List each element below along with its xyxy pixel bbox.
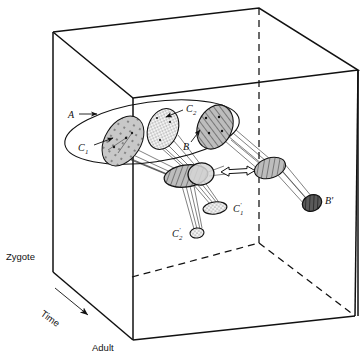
label-c1-prime-subscript: 1 [240,209,243,216]
label-c1-prime-letter: C [233,203,240,214]
label-b: B [183,141,189,152]
label-b-prime: B' [325,195,334,206]
label-c2-letter: C [186,103,193,114]
label-c2-prime-subscript: 2 [179,234,183,241]
axis-label-adult: Adult [92,342,114,353]
developmental-landscape-diagram: A C 1 C 2 B B' C 1 ' C 2 ' Zygote Adult … [0,0,363,358]
label-c1-subscript: 1 [85,148,88,155]
label-c2-subscript: 2 [193,109,197,116]
figure-root: A C 1 C 2 B B' C 1 ' C 2 ' Zygote Adult … [0,0,363,358]
axis-label-zygote: Zygote [6,251,35,262]
label-c1-letter: C [78,142,85,153]
label-a: A [67,109,75,120]
label-c2-prime-letter: C [172,228,179,239]
